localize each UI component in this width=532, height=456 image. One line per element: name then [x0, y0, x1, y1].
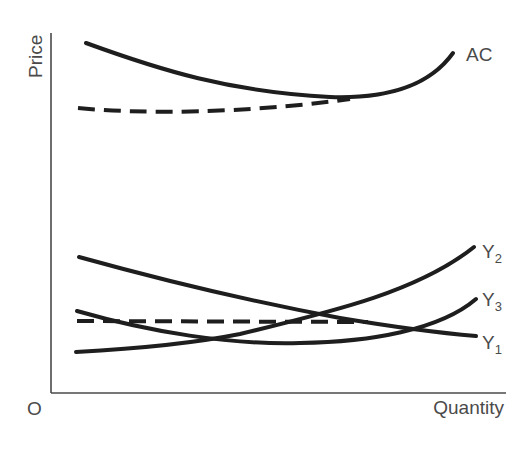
y2-label: Y2 [482, 241, 502, 266]
origin-label: O [27, 398, 42, 419]
ac-label: AC [466, 44, 492, 65]
ac-dashed-curve [78, 99, 350, 112]
ac-curve [86, 43, 453, 97]
y-axis-label: Price [25, 35, 46, 78]
y3-label: Y3 [482, 289, 502, 314]
x-axis-label: Quantity [433, 397, 504, 418]
y1-label: Y1 [482, 332, 502, 357]
cost-curves-diagram: Price Quantity O AC Y2 Y3 Y1 [0, 0, 532, 456]
y2-curve [76, 247, 474, 352]
